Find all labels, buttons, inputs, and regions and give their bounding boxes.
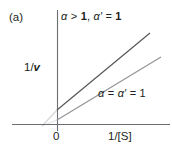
value-one: 1 [140, 87, 146, 99]
lineweaver-burk-figure: (a) α > 1, α′ = 1 α = α′ = 1 1/v 1/[S] 0 [0, 0, 172, 157]
equals-symbol-first: = [104, 87, 117, 99]
equals-symbol-second: = [126, 87, 139, 99]
relation-symbol: > [67, 10, 80, 22]
y-axis-label-variable: v [34, 61, 40, 73]
equals-symbol: = [102, 10, 115, 22]
y-axis-label-prefix: 1/ [24, 61, 34, 73]
origin-tick-label: 0 [53, 131, 59, 143]
value-one-second: 1 [115, 10, 121, 22]
series-annotation-alpha-greater-than-one: α > 1, α′ = 1 [61, 11, 122, 22]
plot-canvas [0, 0, 172, 157]
x-axis-label: 1/[S] [108, 131, 132, 143]
alpha-prime-symbol: α′ [93, 10, 102, 22]
y-axis-label: 1/v [24, 62, 40, 74]
series-annotation-alpha-equals-alpha-prime: α = α′ = 1 [98, 88, 146, 99]
panel-label: (a) [9, 12, 23, 24]
